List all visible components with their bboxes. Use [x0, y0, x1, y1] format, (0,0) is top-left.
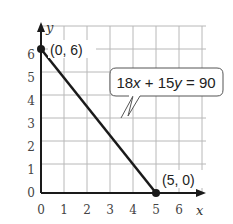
svg-text:6: 6 — [175, 203, 183, 217]
point-label-0-6: (0, 6) — [50, 42, 83, 58]
coordinate-graph: 18x + 15y = 90 (0, 6) (5, 0) y x 0 1 2 3… — [0, 0, 233, 224]
point-0-6 — [37, 45, 45, 53]
svg-text:6: 6 — [27, 48, 35, 62]
x-axis-arrow-icon — [196, 189, 206, 197]
svg-text:3: 3 — [27, 117, 35, 131]
svg-text:3: 3 — [106, 203, 114, 217]
y-tick-labels: 0 1 2 3 4 5 6 — [27, 48, 35, 200]
svg-text:5: 5 — [27, 71, 35, 85]
y-axis-arrow-icon — [37, 22, 45, 32]
svg-text:4: 4 — [129, 203, 137, 217]
point-5-0 — [152, 189, 160, 197]
svg-text:4: 4 — [27, 94, 35, 108]
svg-text:5: 5 — [152, 203, 160, 217]
svg-text:2: 2 — [27, 140, 35, 154]
y-axis-label: y — [45, 20, 54, 35]
svg-text:1: 1 — [27, 163, 35, 177]
point-label-5-0: (5, 0) — [162, 172, 195, 188]
svg-text:0: 0 — [27, 186, 35, 200]
x-axis-label: x — [196, 203, 204, 218]
x-tick-labels: 0 1 2 3 4 5 6 — [37, 203, 183, 217]
svg-text:2: 2 — [83, 203, 91, 217]
svg-text:0: 0 — [37, 203, 45, 217]
equation-label: 18x + 15y = 90 — [116, 74, 215, 91]
svg-text:1: 1 — [60, 203, 68, 217]
